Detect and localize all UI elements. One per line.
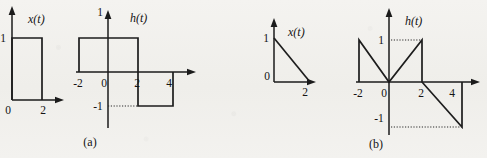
plot-b-x: 1 0 2 x(t) (263, 18, 316, 98)
y-tick-label-1: 1 (0, 32, 6, 44)
y-tick-label-1: 1 (378, 34, 384, 46)
plot-b-h: 1 -1 -2 0 2 4 h(t) (353, 8, 480, 135)
signal-figure: 1 0 2 x(t) 1 -1 -2 0 (0, 0, 487, 158)
y-tick-label-neg1: -1 (93, 100, 103, 112)
y-axis-arrow (386, 8, 393, 17)
panel-b: 1 0 2 x(t) 1 -1 -2 (263, 8, 480, 151)
waveform-a-x (12, 38, 42, 100)
x-axis-arrow (471, 79, 480, 86)
x-tick-label-2: 2 (40, 104, 46, 116)
y-tick-label-1: 1 (263, 32, 269, 44)
panel-a: 1 0 2 x(t) 1 -1 -2 0 (0, 6, 196, 149)
panel-caption-a: (a) (83, 135, 96, 149)
x-tick-label-0: 0 (264, 70, 270, 82)
x-tick-label-0: 0 (5, 104, 11, 116)
x-axis-arrow (187, 69, 196, 76)
x-tick-label-0: 0 (381, 87, 387, 99)
x-tick-label-2: 2 (418, 87, 424, 99)
x-tick-label-neg2: -2 (353, 87, 363, 99)
x-tick-label-4: 4 (449, 87, 455, 99)
x-tick-label-2: 2 (302, 86, 308, 98)
x-axis-arrow (55, 97, 64, 104)
y-axis-arrow (9, 6, 16, 15)
x-tick-label-neg2: -2 (73, 77, 83, 89)
signal-label-x-t: x(t) (287, 25, 305, 39)
y-tick-label-1: 1 (97, 6, 103, 18)
y-axis-arrow (271, 18, 278, 27)
figure-root: 1 0 2 x(t) 1 -1 -2 0 (0, 0, 487, 158)
x-tick-label-0: 0 (101, 77, 107, 89)
x-tick-label-4: 4 (166, 77, 172, 89)
plot-a-h: 1 -1 -2 0 2 4 h(t) (73, 6, 196, 128)
signal-label-x-t: x(t) (27, 12, 45, 26)
signal-label-h-t: h(t) (405, 14, 422, 28)
panel-caption-b: (b) (369, 137, 383, 151)
y-axis-arrow (105, 10, 112, 19)
y-tick-label-neg1: -1 (374, 112, 384, 124)
signal-label-h-t: h(t) (130, 11, 147, 25)
x-tick-label-2: 2 (134, 77, 140, 89)
waveform-b-x (274, 38, 310, 82)
plot-a-x: 1 0 2 x(t) (0, 6, 64, 116)
